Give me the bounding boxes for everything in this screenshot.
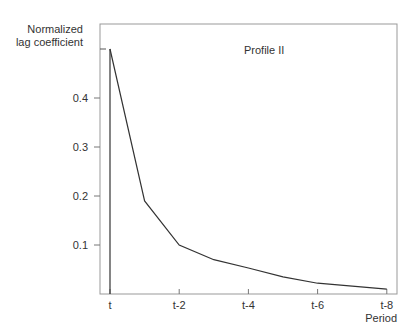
y-axis-label-line2: lag coefficient [16, 36, 83, 48]
plot-frame [100, 24, 397, 294]
y-tick-label: 0.1 [73, 239, 88, 251]
x-tick-label: t-6 [311, 299, 324, 311]
x-tick-label: t-8 [380, 299, 393, 311]
y-axis-ticks: 0.10.20.30.4 [73, 92, 100, 251]
x-tick-label: t-4 [242, 299, 255, 311]
x-axis-ticks: tt-2t-4t-6t-8 [108, 289, 393, 311]
x-axis-label: Period [365, 312, 397, 324]
y-tick-label: 0.2 [73, 190, 88, 202]
series-line-profile-ii [110, 49, 387, 289]
y-axis-label-line1: Normalized [27, 23, 83, 35]
y-tick-label: 0.3 [73, 141, 88, 153]
chart-title: Profile II [244, 44, 284, 56]
y-tick-label: 0.4 [73, 92, 88, 104]
x-tick-label: t [108, 299, 111, 311]
x-tick-label: t-2 [173, 299, 186, 311]
lag-profile-chart: 0.10.20.30.4 tt-2t-4t-6t-8 Profile II No… [0, 0, 416, 332]
